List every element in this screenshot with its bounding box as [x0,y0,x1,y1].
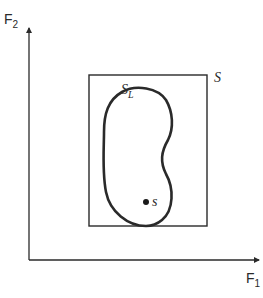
x-axis-label: F1 [246,270,261,289]
region-sl-label: SL [121,82,134,100]
set-s-label: S [214,70,221,85]
diagram-canvas: F2 F1 S SL s [0,0,263,298]
point-s-label: s [152,194,158,209]
point-s-marker [143,199,149,205]
region-sl-outline [104,88,172,226]
y-axis-label: F2 [4,11,19,30]
